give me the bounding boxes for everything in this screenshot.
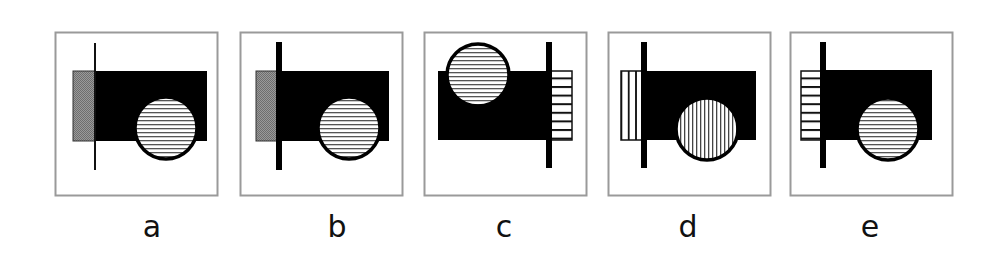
option-d-label[interactable]: d: [678, 212, 697, 242]
thick-vertical-line: [820, 42, 826, 168]
striped-tab: [621, 71, 643, 140]
option-c-figure[interactable]: [425, 33, 587, 196]
hatched-circle: [676, 98, 738, 160]
striped-tab: [801, 71, 822, 140]
hatched-circle: [135, 97, 197, 159]
striped-tab: [550, 71, 572, 140]
gray-tab: [256, 71, 277, 141]
option-b-figure[interactable]: [241, 33, 403, 196]
option-a-figure[interactable]: [56, 33, 218, 196]
thin-vertical-line: [94, 43, 96, 170]
option-a-label[interactable]: a: [143, 212, 161, 242]
option-e-label[interactable]: e: [861, 212, 879, 242]
hatched-circle: [857, 98, 919, 160]
thick-vertical-line: [641, 42, 647, 168]
option-e-figure[interactable]: [791, 33, 953, 196]
option-d-figure[interactable]: [609, 33, 771, 196]
option-c-label[interactable]: c: [496, 212, 513, 242]
hatched-circle: [318, 97, 380, 159]
hatched-circle: [447, 44, 509, 106]
gray-tab: [73, 71, 95, 141]
option-b-label[interactable]: b: [327, 212, 346, 242]
thick-vertical-line: [276, 42, 282, 170]
thick-vertical-line: [546, 42, 552, 168]
